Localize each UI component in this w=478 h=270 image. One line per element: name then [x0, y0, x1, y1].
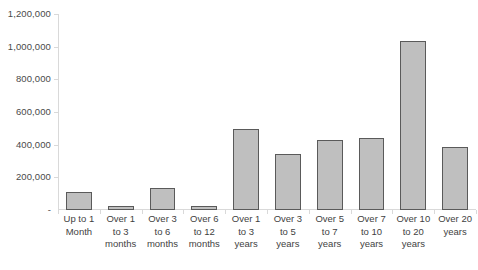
- x-axis-category-label-line: years: [309, 238, 351, 251]
- x-axis-category-label-line: Over 1: [225, 213, 267, 226]
- x-axis-category-label-line: to 10: [351, 226, 393, 239]
- bar: [191, 206, 217, 210]
- x-axis-category-label-line: Over 7: [351, 213, 393, 226]
- x-axis-category-label-line: Over 3: [142, 213, 184, 226]
- x-axis-category-label: Over 7to 10years: [351, 213, 393, 251]
- x-axis-category-label-line: Up to 1: [58, 213, 100, 226]
- y-axis-tick-mark: [54, 14, 58, 15]
- y-axis-tick-label: -: [48, 205, 51, 215]
- bar: [400, 41, 426, 210]
- x-axis-category-label-line: Over 5: [309, 213, 351, 226]
- bar-chart: -200,000400,000600,000800,0001,000,0001,…: [0, 0, 478, 270]
- x-axis-category-label: Over 20years: [434, 213, 476, 238]
- x-axis-category-label-line: years: [434, 226, 476, 239]
- bar: [442, 147, 468, 210]
- x-axis-category-label-line: months: [100, 238, 142, 251]
- bar: [108, 206, 134, 210]
- bar: [150, 188, 176, 210]
- x-axis-category-label-line: years: [267, 238, 309, 251]
- bar: [233, 129, 259, 210]
- y-axis-tick-label: 800,000: [16, 74, 51, 84]
- x-axis-category-label-line: to 3: [100, 226, 142, 239]
- x-axis-category-label: Over 3to 6months: [142, 213, 184, 251]
- y-axis-tick-mark: [54, 177, 58, 178]
- x-axis-category-label-line: years: [225, 238, 267, 251]
- x-axis-category-label: Over 10to 20years: [392, 213, 434, 251]
- x-axis-category-label-line: months: [142, 238, 184, 251]
- x-axis-category-label-line: Over 10: [392, 213, 434, 226]
- x-axis-category-label-line: to 20: [392, 226, 434, 239]
- x-axis-category-label-line: to 3: [225, 226, 267, 239]
- bar: [317, 140, 343, 210]
- y-axis-tick-mark: [54, 47, 58, 48]
- x-axis-category-label-line: years: [351, 238, 393, 251]
- y-axis-tick-label: 200,000: [16, 172, 51, 182]
- x-axis-category-label-line: years: [392, 238, 434, 251]
- x-axis-category-label: Over 1to 3months: [100, 213, 142, 251]
- x-axis-category-label: Over 1to 3years: [225, 213, 267, 251]
- x-axis-category-label-line: to 5: [267, 226, 309, 239]
- bars-layer: [58, 14, 476, 210]
- y-axis-tick-label: 1,200,000: [8, 9, 51, 19]
- x-axis: Up to 1MonthOver 1to 3monthsOver 3to 6mo…: [58, 213, 476, 270]
- x-axis-category-label: Up to 1Month: [58, 213, 100, 238]
- y-axis-tick-label: 1,000,000: [8, 42, 51, 52]
- x-axis-category-label-line: Over 6: [183, 213, 225, 226]
- x-axis-category-label-line: Over 3: [267, 213, 309, 226]
- x-axis-category-label: Over 3to 5years: [267, 213, 309, 251]
- x-axis-category-label-line: to 6: [142, 226, 184, 239]
- plot-area: [58, 14, 476, 210]
- x-axis-category-label-line: to 7: [309, 226, 351, 239]
- x-axis-category-label-line: to 12: [183, 226, 225, 239]
- x-axis-category-label: Over 5to 7years: [309, 213, 351, 251]
- y-axis-tick-mark: [54, 112, 58, 113]
- y-axis: -200,000400,000600,000800,0001,000,0001,…: [0, 0, 56, 216]
- bar: [66, 192, 92, 210]
- x-axis-category-label: Over 6to 12months: [183, 213, 225, 251]
- y-axis-tick-mark: [54, 145, 58, 146]
- x-axis-category-label-line: months: [183, 238, 225, 251]
- x-axis-category-label-line: Month: [58, 226, 100, 239]
- y-axis-tick-label: 600,000: [16, 107, 51, 117]
- x-axis-category-label-line: Over 20: [434, 213, 476, 226]
- bar: [275, 154, 301, 210]
- bar: [359, 138, 385, 210]
- x-axis-category-label-line: Over 1: [100, 213, 142, 226]
- y-axis-tick-label: 400,000: [16, 140, 51, 150]
- y-axis-tick-mark: [54, 79, 58, 80]
- x-axis-tick-mark: [476, 210, 477, 214]
